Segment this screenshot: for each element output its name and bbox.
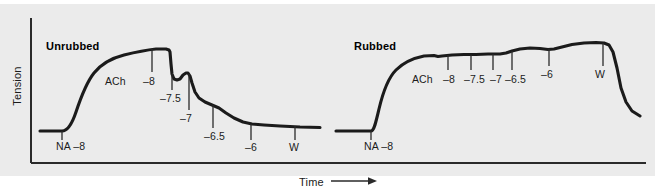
marker-ticks-unrubbed xyxy=(62,49,295,140)
trace-rubbed xyxy=(336,43,640,141)
plot-area xyxy=(0,0,655,195)
arrow-right-icon xyxy=(331,177,377,185)
figure-container: Tension Time Unrubbed Rubbed NA –8 ACh –… xyxy=(0,0,655,195)
trace-unrubbed xyxy=(40,49,320,140)
marker-ticks-rubbed xyxy=(371,43,603,140)
